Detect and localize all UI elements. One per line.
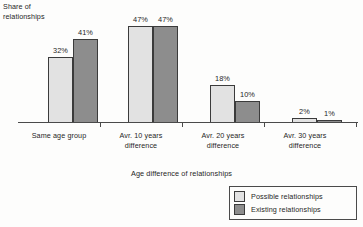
bar-group-same-age-group: 32% 41%	[42, 16, 104, 123]
legend-swatch-icon	[234, 204, 245, 215]
category-label-avr-10-years: Avr. 10 years difference	[104, 131, 178, 150]
legend-label: Existing relationships	[251, 205, 321, 214]
x-axis-title: Age difference of relationships	[0, 169, 363, 178]
bar-value-label: 47%	[133, 16, 148, 24]
bar-wrap: 18%	[210, 85, 235, 123]
bar-group-avr-10-years: 47% 47%	[122, 16, 184, 123]
bar-group-avr-30-years: 2% 1%	[286, 16, 348, 123]
category-label-avr-30-years: Avr. 30 years difference	[268, 131, 342, 150]
bar-existing-avr-10-years	[153, 26, 178, 123]
legend-item-possible-relationships: Possible relationships	[234, 190, 352, 203]
bar-possible-avr-20-years	[210, 85, 235, 123]
bar-value-label: 18%	[215, 75, 230, 83]
category-label-same-age-group: Same age group	[22, 131, 96, 141]
axis-tick	[264, 123, 265, 127]
axis-tick	[100, 123, 101, 127]
x-axis-line	[18, 122, 358, 123]
bar-existing-avr-20-years	[235, 101, 260, 123]
bar-existing-same-age-group	[73, 39, 98, 123]
bar-possible-same-age-group	[48, 57, 73, 123]
bar-group-avr-20-years: 18% 10%	[204, 16, 266, 123]
axis-tick	[182, 123, 183, 127]
chart-legend: Possible relationships Existing relation…	[229, 186, 357, 220]
bar-value-label: 47%	[158, 16, 173, 24]
legend-item-existing-relationships: Existing relationships	[234, 203, 352, 216]
category-label-avr-20-years: Avr. 20 years difference	[186, 131, 260, 150]
bar-value-label: 1%	[324, 110, 335, 118]
bar-value-label: 2%	[299, 108, 310, 116]
bar-wrap: 10%	[235, 101, 260, 123]
legend-label: Possible relationships	[251, 192, 323, 201]
bar-value-label: 41%	[78, 29, 93, 37]
legend-swatch-icon	[234, 191, 245, 202]
bar-possible-avr-10-years	[128, 26, 153, 123]
bar-wrap: 32%	[48, 57, 73, 123]
bar-wrap: 41%	[73, 39, 98, 123]
bar-wrap: 47%	[153, 26, 178, 123]
bar-wrap: 47%	[128, 26, 153, 123]
plot-area: 32% 41% 47% 47% 18% 10%	[18, 16, 356, 123]
axis-tick	[356, 123, 357, 127]
bar-value-label: 10%	[240, 91, 255, 99]
chart-figure: Share of relationships 32% 41% 47% 47%	[0, 0, 363, 227]
bar-value-label: 32%	[53, 47, 68, 55]
